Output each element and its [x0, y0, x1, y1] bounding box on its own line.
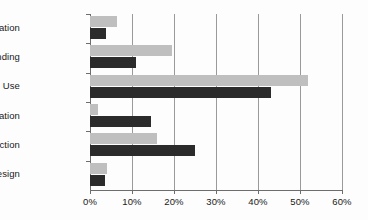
category-label: Selection [0, 139, 20, 150]
x-tick-mark [90, 190, 91, 194]
bar-series-light [90, 104, 98, 115]
x-tick-label: 50% [280, 196, 320, 207]
bar-series-dark [90, 28, 106, 39]
bar-series-light [90, 16, 117, 27]
x-tick-label: 30% [196, 196, 236, 207]
x-tick-mark [174, 190, 175, 194]
bar-group [90, 73, 342, 102]
bar-series-light [90, 45, 172, 56]
x-tick-label: 0% [70, 196, 110, 207]
x-tick-mark [258, 190, 259, 194]
bar-series-dark [90, 175, 105, 186]
category-label: Information [0, 22, 20, 33]
bar-series-dark [90, 57, 136, 68]
x-tick-mark [342, 190, 343, 194]
bar-group [90, 131, 342, 160]
bar-series-dark [90, 87, 271, 98]
bar-series-light [90, 75, 308, 86]
category-label: Coordination [0, 110, 20, 121]
bar-series-dark [90, 116, 151, 127]
bar-chart: InformationUnderstandingUseCoordinationS… [0, 0, 368, 220]
category-label: Design [0, 168, 20, 179]
bar-series-dark [90, 145, 195, 156]
bar-series-light [90, 163, 107, 174]
x-tick-label: 40% [238, 196, 278, 207]
category-label: Understanding [0, 51, 20, 62]
gridline [342, 14, 343, 190]
x-tick-label: 10% [112, 196, 152, 207]
x-tick-mark [300, 190, 301, 194]
bar-group [90, 43, 342, 72]
bar-group [90, 102, 342, 131]
bar-group [90, 14, 342, 43]
x-tick-mark [216, 190, 217, 194]
x-tick-label: 60% [322, 196, 362, 207]
bar-series-light [90, 133, 157, 144]
x-tick-mark [132, 190, 133, 194]
x-tick-label: 20% [154, 196, 194, 207]
bar-group [90, 161, 342, 190]
category-label: Use [3, 80, 20, 91]
